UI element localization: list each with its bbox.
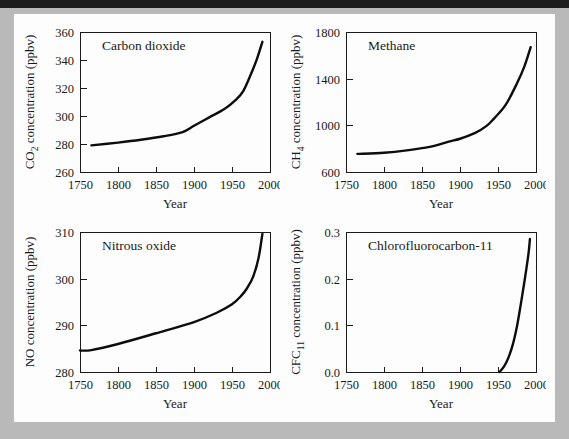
y-axis-title: CH4 concentration (ppbv): [288, 35, 306, 170]
x-tick-label: 2000: [524, 378, 546, 392]
x-tick-label: 1900: [448, 178, 473, 192]
plot-frame: [347, 233, 537, 373]
x-tick-label: 1750: [68, 378, 93, 392]
x-tick-label: 1850: [144, 178, 169, 192]
x-tick-label: 1800: [372, 178, 397, 192]
x-tick-label: 1750: [334, 178, 359, 192]
x-tick-label: 1800: [106, 178, 131, 192]
x-tick-label: 1850: [410, 178, 435, 192]
y-axis-title: NO concentration (ppbv): [22, 237, 37, 368]
x-tick-label: 1850: [410, 378, 435, 392]
panel-caption: Carbon dioxide: [102, 38, 186, 53]
y-axis-title: CFC11 concentration (ppbv): [288, 229, 306, 375]
x-tick-label: 2000: [258, 378, 280, 392]
x-axis-title: Year: [163, 396, 188, 411]
panel-carbon-dioxide: 2602803003203403601750180018501900195020…: [18, 20, 280, 220]
x-tick-label: 1750: [68, 178, 93, 192]
plot-frame: [81, 233, 271, 373]
x-tick-label: 1900: [448, 378, 473, 392]
x-tick-label: 1900: [182, 378, 207, 392]
y-tick-label: 360: [55, 26, 74, 40]
y-tick-label: 0.1: [324, 319, 340, 333]
figure-page: 2602803003203403601750180018501900195020…: [14, 14, 555, 422]
panel-caption: Methane: [368, 38, 415, 53]
y-tick-label: 310: [55, 226, 74, 240]
data-curve: [500, 239, 530, 372]
y-tick-label: 280: [55, 138, 74, 152]
y-axis-title: CO2 concentration (ppbv): [22, 35, 40, 170]
panel-chlorofluorocarbon-11: 0.00.10.20.3175018001850190019502000Year…: [284, 220, 546, 420]
x-tick-label: 1900: [182, 178, 207, 192]
x-tick-label: 1800: [106, 378, 131, 392]
x-axis-title: Year: [429, 396, 454, 411]
panel-nitrous-oxide: 280290300310175018001850190019502000Year…: [18, 220, 280, 420]
x-tick-label: 1950: [220, 178, 245, 192]
chart-nitrous-oxide: 280290300310175018001850190019502000Year…: [18, 220, 280, 420]
x-tick-label: 1850: [144, 378, 169, 392]
panel-methane: 600100014001800175018001850190019502000Y…: [284, 20, 546, 220]
x-axis-title: Year: [163, 196, 188, 211]
x-axis-title: Year: [429, 196, 454, 211]
y-tick-label: 0.2: [324, 273, 340, 287]
data-curve: [357, 47, 530, 154]
x-tick-label: 2000: [258, 178, 280, 192]
x-tick-label: 2000: [524, 178, 546, 192]
x-tick-label: 1800: [372, 378, 397, 392]
x-tick-label: 1950: [220, 378, 245, 392]
chart-chlorofluorocarbon-11: 0.00.10.20.3175018001850190019502000Year…: [284, 220, 546, 420]
data-curve: [91, 42, 262, 146]
x-tick-label: 1950: [486, 378, 511, 392]
plot-frame: [81, 33, 271, 173]
y-tick-label: 1800: [315, 26, 340, 40]
panel-caption: Chlorofluorocarbon-11: [368, 238, 493, 253]
greenhouse-gas-figure: 2602803003203403601750180018501900195020…: [14, 14, 555, 422]
chart-carbon-dioxide: 2602803003203403601750180018501900195020…: [18, 20, 280, 220]
top-dark-strip: [0, 0, 569, 8]
y-tick-label: 290: [55, 319, 74, 333]
panel-caption: Nitrous oxide: [102, 238, 176, 253]
y-tick-label: 300: [55, 273, 74, 287]
y-tick-label: 1400: [315, 73, 340, 87]
chart-methane: 600100014001800175018001850190019502000Y…: [284, 20, 546, 220]
y-tick-label: 320: [55, 82, 74, 96]
y-tick-label: 1000: [315, 119, 340, 133]
y-tick-label: 340: [55, 54, 74, 68]
x-tick-label: 1750: [334, 378, 359, 392]
y-tick-label: 0.3: [324, 226, 340, 240]
y-tick-label: 300: [55, 110, 74, 124]
x-tick-label: 1950: [486, 178, 511, 192]
